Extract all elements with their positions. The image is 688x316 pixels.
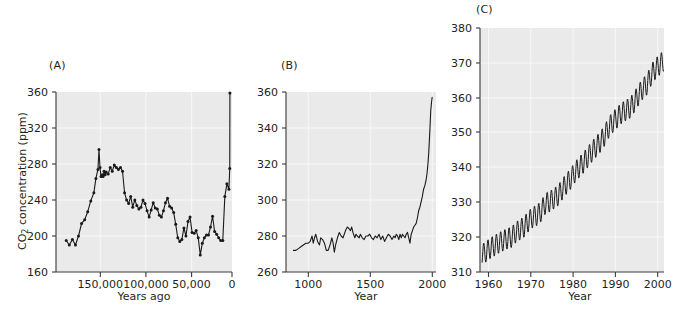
svg-text:280: 280 — [257, 230, 278, 243]
svg-text:260: 260 — [257, 266, 278, 279]
panel-a-x-ticks: 150,000 100,000 50,000 0 — [78, 278, 236, 291]
svg-text:1970: 1970 — [517, 278, 545, 291]
svg-text:240: 240 — [27, 194, 48, 207]
svg-text:50,000: 50,000 — [172, 278, 211, 291]
panel-b-plot: 360 340 320 300 280 260 1000 1500 2000 — [250, 0, 450, 316]
panel-a-plot-background — [56, 92, 232, 272]
svg-text:1980: 1980 — [559, 278, 587, 291]
svg-text:340: 340 — [257, 122, 278, 135]
svg-text:1000: 1000 — [294, 278, 322, 291]
svg-text:320: 320 — [27, 122, 48, 135]
svg-text:350: 350 — [451, 126, 472, 139]
panel-c-x-ticks: 1960 1970 1980 1990 2000 — [475, 278, 672, 291]
panel-b-y-ticks: 360 340 320 300 280 260 — [257, 86, 278, 279]
svg-text:380: 380 — [451, 22, 472, 35]
svg-text:320: 320 — [257, 158, 278, 171]
panel-b-x-ticks: 1000 1500 2000 — [294, 278, 446, 291]
svg-text:1960: 1960 — [475, 278, 503, 291]
svg-text:280: 280 — [27, 158, 48, 171]
svg-text:100,000: 100,000 — [123, 278, 169, 291]
svg-text:360: 360 — [451, 92, 472, 105]
svg-text:2000: 2000 — [418, 278, 446, 291]
svg-text:200: 200 — [27, 230, 48, 243]
co2-figure: (A) CO2 concentration (ppm) Years ago — [0, 0, 688, 316]
panel-a-plot: 360 320 280 240 200 160 150,000 100,000 … — [0, 0, 250, 316]
svg-text:300: 300 — [257, 194, 278, 207]
svg-text:0: 0 — [229, 278, 236, 291]
svg-text:320: 320 — [451, 231, 472, 244]
svg-text:360: 360 — [257, 86, 278, 99]
panel-c-plot-background — [480, 28, 664, 272]
svg-text:160: 160 — [27, 266, 48, 279]
svg-text:330: 330 — [451, 196, 472, 209]
panel-a: (A) CO2 concentration (ppm) Years ago — [0, 0, 250, 316]
svg-text:370: 370 — [451, 57, 472, 70]
panel-b: (B) Year — [250, 0, 450, 316]
svg-text:340: 340 — [451, 161, 472, 174]
svg-text:1500: 1500 — [356, 278, 384, 291]
svg-text:310: 310 — [451, 266, 472, 279]
svg-text:2000: 2000 — [644, 278, 672, 291]
panel-c-y-ticks: 380 370 360 350 340 330 320 310 — [451, 22, 472, 279]
svg-text:150,000: 150,000 — [78, 278, 124, 291]
svg-text:360: 360 — [27, 86, 48, 99]
panel-c-plot: 380 370 360 350 340 330 320 310 1960 197… — [450, 0, 688, 316]
svg-text:1990: 1990 — [601, 278, 629, 291]
panel-a-y-ticks: 360 320 280 240 200 160 — [27, 86, 48, 279]
panel-c: (C) Year — [450, 0, 688, 316]
